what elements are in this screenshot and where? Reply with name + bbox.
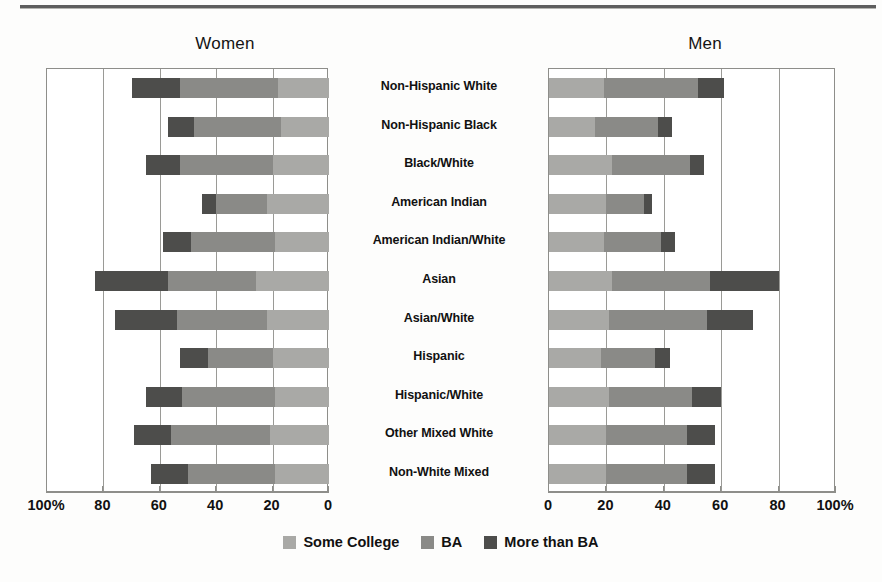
stacked-bar (146, 155, 329, 175)
bar-segment-more-than-ba (658, 117, 672, 137)
bar-segment-ba (191, 232, 276, 252)
bar-segment-more-than-ba (115, 310, 177, 330)
bar-segment-some-college (267, 194, 329, 214)
bar-segment-some-college (275, 232, 329, 252)
stacked-bar (95, 271, 329, 291)
bar-row (47, 387, 327, 407)
stacked-bar (549, 387, 721, 407)
chart-legend: Some CollegeBAMore than BA (0, 534, 882, 550)
bar-row (47, 194, 327, 214)
bar-segment-ba (177, 310, 267, 330)
axis-tick (215, 486, 216, 493)
stacked-bar (549, 271, 779, 291)
stacked-bar (549, 155, 704, 175)
bar-row (47, 117, 327, 137)
bar-segment-ba (609, 387, 692, 407)
bar-segment-ba (604, 232, 661, 252)
bar-segment-more-than-ba (710, 271, 779, 291)
bar-segment-more-than-ba (690, 155, 704, 175)
bar-segment-more-than-ba (698, 78, 724, 98)
category-label-american-indian-white: American Indian/White (332, 233, 546, 247)
bar-row (47, 310, 327, 330)
bar-segment-some-college (278, 78, 329, 98)
bar-segment-more-than-ba (644, 194, 653, 214)
stacked-bar (549, 232, 675, 252)
axis-tick-label-40: 40 (655, 497, 671, 513)
legend-swatch-ba (421, 536, 434, 549)
figure-page: Women Men Non-Hispanic WhiteNon-Hispanic… (0, 0, 882, 582)
bar-row (549, 78, 834, 98)
stacked-bar (163, 232, 329, 252)
bar-segment-more-than-ba (134, 425, 171, 445)
category-label-column: Non-Hispanic WhiteNon-Hispanic BlackBlac… (332, 68, 546, 492)
bar-segment-more-than-ba (202, 194, 216, 214)
bar-segment-some-college (275, 387, 329, 407)
legend-label: More than BA (504, 534, 598, 550)
bar-row (47, 348, 327, 368)
legend-item: BA (421, 534, 462, 550)
bar-segment-more-than-ba (180, 348, 208, 368)
bar-segment-ba (180, 155, 273, 175)
stacked-bar (549, 464, 715, 484)
category-label-american-indian: American Indian (332, 195, 546, 209)
bar-segment-ba (612, 155, 689, 175)
axis-line-women (46, 492, 328, 493)
bar-segment-some-college (267, 310, 329, 330)
bar-segment-more-than-ba (707, 310, 753, 330)
bar-segment-more-than-ba (692, 387, 721, 407)
axis-tick (605, 486, 606, 493)
stacked-bar (549, 348, 670, 368)
stacked-bar (134, 425, 329, 445)
bar-segment-some-college (275, 464, 329, 484)
bar-segment-more-than-ba (146, 387, 183, 407)
bar-segment-some-college (549, 194, 606, 214)
stacked-bar (202, 194, 329, 214)
legend-item: Some College (283, 534, 399, 550)
bar-segment-more-than-ba (146, 155, 180, 175)
axis-tick-label-100pct: 100% (816, 497, 853, 513)
axis-tick-label-80: 80 (770, 497, 786, 513)
bar-segment-more-than-ba (132, 78, 180, 98)
bar-segment-some-college (549, 271, 612, 291)
bar-segment-ba (606, 464, 686, 484)
axis-tick (663, 486, 664, 493)
plot-area-women (46, 68, 328, 492)
axis-tick-label-60: 60 (151, 497, 167, 513)
axis-tick (720, 486, 721, 493)
axis-tick (835, 486, 836, 493)
panel-title-women: Women (165, 34, 285, 54)
bar-segment-some-college (281, 117, 329, 137)
bar-segment-some-college (273, 348, 329, 368)
bar-row (549, 155, 834, 175)
bar-segment-some-college (256, 271, 329, 291)
bar-segment-more-than-ba (655, 348, 669, 368)
stacked-bar (151, 464, 329, 484)
bar-row (47, 155, 327, 175)
bar-segment-ba (208, 348, 273, 368)
stacked-bar (549, 425, 715, 445)
category-label-hispanic-white: Hispanic/White (332, 388, 546, 402)
axis-tick (159, 486, 160, 493)
bar-segment-some-college (270, 425, 329, 445)
bar-row (549, 232, 834, 252)
bar-row (549, 425, 834, 445)
legend-swatch-some-college (283, 536, 296, 549)
axis-tick-label-100pct: 100% (27, 497, 64, 513)
bar-row (549, 117, 834, 137)
bar-segment-ba (168, 271, 255, 291)
axis-tick (272, 486, 273, 493)
axis-tick (46, 486, 47, 493)
bar-row (47, 232, 327, 252)
axis-tick (328, 486, 329, 493)
bar-segment-some-college (549, 232, 604, 252)
bar-row (549, 194, 834, 214)
bar-row (47, 425, 327, 445)
bar-row (549, 271, 834, 291)
axis-line-men (548, 492, 835, 493)
bar-row (549, 348, 834, 368)
category-label-non-white-mixed: Non-White Mixed (332, 465, 546, 479)
bar-segment-more-than-ba (95, 271, 168, 291)
bar-segment-more-than-ba (687, 425, 716, 445)
bar-segment-some-college (549, 348, 601, 368)
bar-segment-some-college (549, 425, 606, 445)
